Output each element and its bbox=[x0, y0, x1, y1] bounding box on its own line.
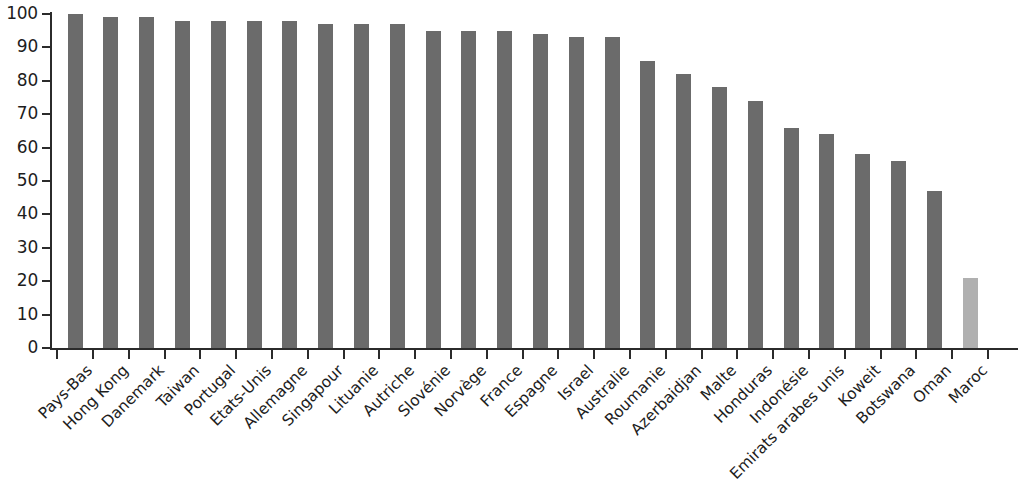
x-axis-tick bbox=[128, 350, 130, 359]
bar bbox=[640, 61, 655, 348]
x-axis-tick bbox=[307, 350, 309, 359]
x-axis-tick bbox=[235, 350, 237, 359]
plot-area bbox=[50, 10, 1018, 348]
bar bbox=[282, 21, 297, 348]
bar bbox=[68, 14, 83, 348]
x-axis-tick bbox=[92, 350, 94, 359]
bar bbox=[712, 87, 727, 348]
y-axis-tick-label: 0 bbox=[0, 339, 38, 356]
bar bbox=[569, 37, 584, 348]
y-axis-tick-label: 60 bbox=[0, 139, 38, 156]
bar bbox=[175, 21, 190, 348]
x-axis-tick bbox=[414, 350, 416, 359]
x-axis-tick bbox=[557, 350, 559, 359]
x-axis-tick bbox=[450, 350, 452, 359]
y-axis-tick-label: 10 bbox=[0, 306, 38, 323]
bar bbox=[855, 154, 870, 348]
bar bbox=[963, 278, 978, 348]
bar bbox=[139, 17, 154, 348]
x-axis-tick bbox=[772, 350, 774, 359]
x-axis-tick bbox=[844, 350, 846, 359]
y-axis-tick-label: 40 bbox=[0, 205, 38, 222]
x-axis-label: Oman bbox=[910, 362, 954, 406]
x-axis-label: Maroc bbox=[946, 362, 991, 407]
bar bbox=[533, 34, 548, 348]
y-axis-tick-label: 50 bbox=[0, 172, 38, 189]
x-axis-tick bbox=[951, 350, 953, 359]
x-axis-tick bbox=[164, 350, 166, 359]
y-axis-tick-label: 90 bbox=[0, 38, 38, 55]
bar bbox=[426, 31, 441, 348]
x-axis-line bbox=[50, 348, 1018, 350]
x-axis-tick bbox=[808, 350, 810, 359]
bar bbox=[497, 31, 512, 348]
bar bbox=[927, 191, 942, 348]
x-axis-tick bbox=[199, 350, 201, 359]
x-axis-tick bbox=[271, 350, 273, 359]
bar bbox=[784, 128, 799, 348]
y-axis-tick-label: 80 bbox=[0, 72, 38, 89]
bar bbox=[211, 21, 226, 348]
x-axis-tick bbox=[486, 350, 488, 359]
x-axis-tick bbox=[701, 350, 703, 359]
bar bbox=[354, 24, 369, 348]
x-axis-tick bbox=[915, 350, 917, 359]
bar bbox=[676, 74, 691, 348]
bar bbox=[247, 21, 262, 348]
bar bbox=[819, 134, 834, 348]
bar bbox=[103, 17, 118, 348]
bar bbox=[318, 24, 333, 348]
x-axis-tick bbox=[56, 350, 58, 359]
x-axis-tick bbox=[880, 350, 882, 359]
bar bbox=[461, 31, 476, 348]
bar bbox=[748, 101, 763, 348]
x-axis-tick bbox=[522, 350, 524, 359]
y-axis-tick-label: 30 bbox=[0, 239, 38, 256]
y-axis-tick-label: 70 bbox=[0, 105, 38, 122]
x-axis-tick bbox=[987, 350, 989, 359]
bar-chart: 1009080706050403020100 Pays-BasHong Kong… bbox=[0, 0, 1020, 493]
y-axis-tick-label: 100 bbox=[0, 5, 38, 22]
bar bbox=[390, 24, 405, 348]
x-axis-tick bbox=[593, 350, 595, 359]
y-axis-tick-label: 20 bbox=[0, 272, 38, 289]
bar bbox=[605, 37, 620, 348]
x-axis-tick bbox=[665, 350, 667, 359]
x-axis-tick bbox=[629, 350, 631, 359]
bar bbox=[891, 161, 906, 348]
x-axis-tick bbox=[378, 350, 380, 359]
x-axis-tick bbox=[343, 350, 345, 359]
x-axis-tick bbox=[736, 350, 738, 359]
